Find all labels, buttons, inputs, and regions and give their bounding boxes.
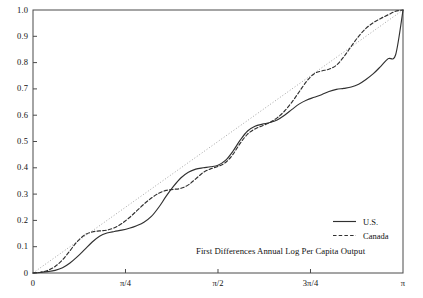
x-axis-ticks — [125, 269, 310, 273]
legend-label-us: U.S. — [363, 217, 378, 227]
y-tick-label: 0.6 — [4, 110, 28, 120]
y-tick-label: 0.9 — [4, 31, 28, 41]
y-tick-label: 0.8 — [4, 57, 28, 67]
y-tick-label: 0.3 — [4, 189, 28, 199]
y-tick-label: 0 — [4, 268, 28, 278]
x-tick-label: π/2 — [198, 278, 238, 288]
chart-annotation: First Differences Annual Log Per Capita … — [196, 246, 365, 256]
x-tick-label: 3π/4 — [290, 278, 330, 288]
x-tick-label: π/4 — [105, 278, 145, 288]
y-axis-ticks — [33, 36, 37, 246]
chart-figure: 00.10.20.30.40.50.60.70.80.91.0 0π/4π/23… — [0, 0, 423, 298]
data-series-group — [33, 10, 403, 273]
legend-label-canada: Canada — [363, 231, 389, 241]
y-tick-label: 1.0 — [4, 5, 28, 15]
legend-sample-lines — [333, 222, 356, 236]
y-tick-label: 0.4 — [4, 162, 28, 172]
series-line-canada — [33, 10, 403, 273]
y-tick-label: 0.5 — [4, 136, 28, 146]
y-tick-label: 0.7 — [4, 83, 28, 93]
x-tick-label: π — [383, 278, 423, 288]
y-tick-label: 0.2 — [4, 215, 28, 225]
y-tick-label: 0.1 — [4, 241, 28, 251]
x-tick-label: 0 — [13, 278, 53, 288]
